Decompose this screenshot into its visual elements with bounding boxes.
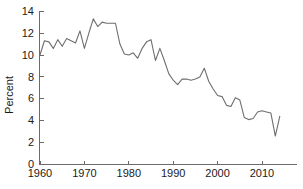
y-tick-label-6: 6 (28, 92, 34, 104)
x-tick-label-1990: 1990 (161, 167, 185, 179)
y-tick-label-2: 2 (28, 136, 34, 148)
line-chart: Percent 0 2 4 6 8 10 12 14 1960 1970 198… (0, 0, 303, 189)
x-tick-marks (40, 161, 262, 165)
y-tick-label-4: 4 (28, 114, 34, 126)
data-series-line (40, 19, 280, 136)
y-tick-label-14: 14 (22, 5, 34, 17)
x-tick-label-2010: 2010 (250, 167, 274, 179)
y-axis-title: Percent (3, 76, 15, 114)
y-tick-label-8: 8 (28, 71, 34, 83)
x-tick-label-2000: 2000 (205, 167, 229, 179)
x-tick-label-1970: 1970 (72, 167, 96, 179)
x-tick-label-1980: 1980 (117, 167, 141, 179)
x-tick-label-1960: 1960 (28, 167, 52, 179)
y-tick-label-10: 10 (22, 49, 34, 61)
y-tick-label-12: 12 (22, 27, 34, 39)
y-tick-labels: 0 2 4 6 8 10 12 14 (22, 5, 34, 170)
y-tick-marks (40, 11, 44, 164)
axis-spines (40, 11, 298, 165)
x-tick-labels: 1960 1970 1980 1990 2000 2010 (28, 167, 274, 179)
chart-figure: Percent 0 2 4 6 8 10 12 14 1960 1970 198… (0, 0, 303, 189)
